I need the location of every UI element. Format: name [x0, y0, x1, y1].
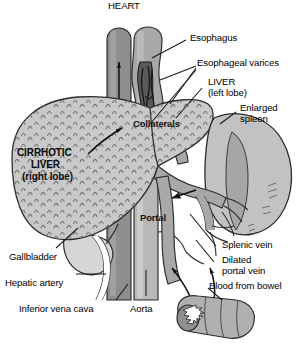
label-liver-left-lobe-line1: LIVER [208, 77, 235, 87]
label-enlarged-spleen-line2: spleen [240, 114, 268, 124]
label-aorta: Aorta [130, 304, 152, 314]
label-hepatic-artery: Hepatic artery [5, 278, 63, 288]
label-splenic-vein: Splenic vein [222, 240, 273, 250]
label-cirrhotic-liver-line1: CIRRHOTIC [17, 148, 72, 159]
label-gallbladder: Gallbladder [9, 252, 57, 262]
label-heart: HEART [108, 1, 140, 11]
portal-hypertension-diagram: HEART Esophagus Esophageal varices LIVER… [0, 0, 304, 348]
label-cirrhotic-liver-line3: (right lobe) [22, 172, 73, 183]
label-collaterals: Collaterals [133, 119, 180, 129]
label-esophageal-varices: Esophageal varices [197, 58, 279, 68]
label-esophagus: Esophagus [190, 33, 237, 43]
label-portal: Portal [140, 213, 166, 223]
label-dilated-portal-vein-line1: Dilated [222, 255, 251, 265]
label-blood-from-bowel: Blood from bowel [209, 281, 282, 291]
label-enlarged-spleen-line1: Enlarged [240, 103, 278, 113]
label-inferior-vena-cava: Inferior vena cava [19, 304, 93, 314]
label-dilated-portal-vein-line2: portal vein [222, 266, 265, 276]
label-liver-left-lobe-line2: (left lobe) [208, 88, 247, 98]
label-cirrhotic-liver-line2: LIVER [31, 160, 60, 171]
